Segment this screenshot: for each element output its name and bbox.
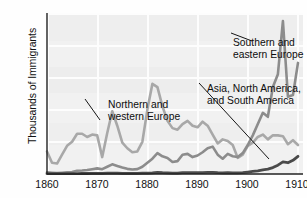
annotation-line-1: Asia, North America, [207, 83, 301, 95]
annotation-line-1: Northern and [108, 99, 180, 111]
x-tick-label: 1860 [27, 179, 67, 190]
x-tick-label: 1900 [227, 179, 267, 190]
annotation-line-1: Southern and [233, 37, 303, 49]
annotation-southern-eastern-europe: Southern and eastern Europe [233, 37, 303, 60]
annotation-northern-western-europe: Northern and western Europe [108, 99, 180, 122]
x-tick-label: 1910 [277, 179, 307, 190]
x-tick-label: 1890 [177, 179, 217, 190]
x-tick-label: 1880 [127, 179, 167, 190]
y-axis-title: Thousands of Immigrants [26, 6, 40, 166]
annotation-asia-americas: Asia, North America, and South America [207, 83, 301, 106]
annotation-line-2: eastern Europe [233, 49, 303, 61]
x-tick-label: 1870 [77, 179, 117, 190]
annotation-line-2: western Europe [108, 111, 180, 123]
immigration-line-chart: Thousands of Immigrants [0, 0, 307, 198]
annotation-line-2: and South America [207, 95, 301, 107]
leader-line-northern-western-europe [85, 99, 100, 120]
plot-area: Northern and western Europe Southern and… [47, 13, 303, 174]
